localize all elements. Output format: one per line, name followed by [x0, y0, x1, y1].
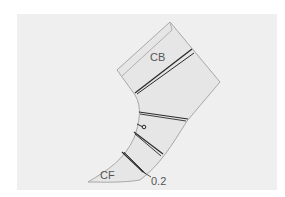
pattern-diagram: CB CF 0.2 — [0, 0, 285, 197]
label-measurement: 0.2 — [151, 175, 166, 187]
label-center-back: CB — [150, 51, 165, 63]
label-center-front: CF — [100, 169, 115, 181]
